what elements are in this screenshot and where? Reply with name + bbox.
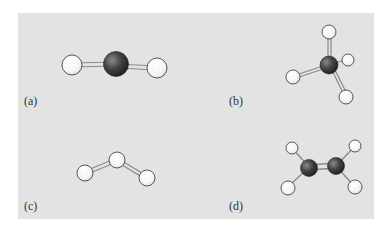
- molecule-diagram: [0, 0, 391, 229]
- molecule-c: [77, 152, 155, 186]
- molecule-a: [62, 52, 167, 79]
- atom-light: [62, 55, 82, 75]
- atom-light: [147, 58, 167, 78]
- molecule-b: [286, 25, 354, 104]
- molecule-d: [281, 140, 362, 195]
- panel-label-c: (c): [24, 199, 37, 214]
- panel-label-a: (a): [24, 94, 37, 109]
- panel-label-b: (b): [229, 94, 243, 109]
- atom-dark: [104, 52, 129, 77]
- panel-label-d: (d): [229, 199, 243, 214]
